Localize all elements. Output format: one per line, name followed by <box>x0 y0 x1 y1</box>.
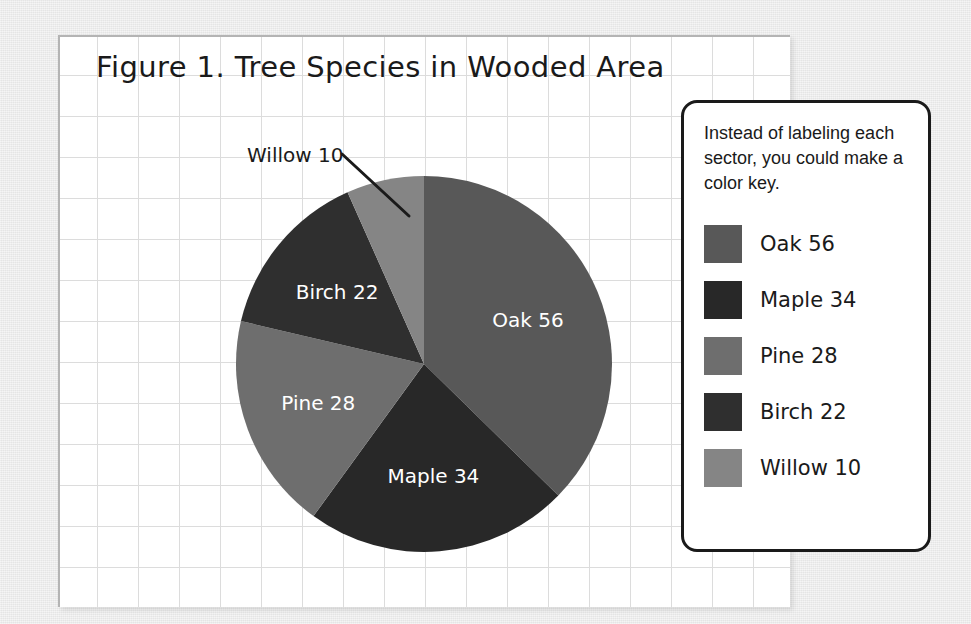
legend-entry-label: Oak 56 <box>760 232 835 256</box>
legend-entry-list: Oak 56Maple 34Pine 28Birch 22Willow 10 <box>704 216 910 496</box>
legend-swatch-icon <box>704 281 742 319</box>
pie-chart-svg: Oak 56Maple 34Pine 28Birch 22 <box>235 175 613 553</box>
legend-entry-label: Maple 34 <box>760 288 856 312</box>
willow-callout-label: Willow 10 <box>247 143 343 167</box>
pie-slice-label-pine: Pine 28 <box>281 391 355 415</box>
legend-color-key: Instead of labeling each sector, you cou… <box>681 100 931 552</box>
legend-entry: Maple 34 <box>704 272 910 328</box>
legend-swatch-icon <box>704 449 742 487</box>
legend-entry: Oak 56 <box>704 216 910 272</box>
legend-swatch-icon <box>704 225 742 263</box>
legend-entry: Pine 28 <box>704 328 910 384</box>
pie-slice-group <box>236 176 612 552</box>
legend-entry-label: Pine 28 <box>760 344 838 368</box>
pie-slice-label-maple: Maple 34 <box>387 464 479 488</box>
pie-slice-label-birch: Birch 22 <box>296 280 379 304</box>
legend-entry-label: Birch 22 <box>760 400 847 424</box>
legend-entry-label: Willow 10 <box>760 456 861 480</box>
legend-entry: Willow 10 <box>704 440 910 496</box>
legend-note-text: Instead of labeling each sector, you cou… <box>704 121 910 196</box>
willow-leader-line-icon <box>340 150 430 230</box>
legend-swatch-icon <box>704 393 742 431</box>
legend-swatch-icon <box>704 337 742 375</box>
pie-chart: Oak 56Maple 34Pine 28Birch 22 <box>235 175 613 553</box>
legend-entry: Birch 22 <box>704 384 910 440</box>
pie-slice-label-oak: Oak 56 <box>492 308 563 332</box>
page-title: Figure 1. Tree Species in Wooded Area <box>96 50 665 84</box>
